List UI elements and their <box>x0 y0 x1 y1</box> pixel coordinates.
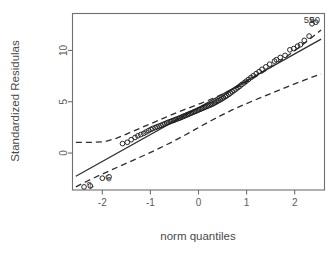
outlier-label: 2 <box>84 179 95 191</box>
x-axis-tick-labels: -2-1012 <box>98 197 298 208</box>
qq-plot-canvas: -2-1012 0510 595026 norm quantiles Stand… <box>0 0 336 254</box>
confidence-envelope-lower <box>76 74 321 187</box>
confidence-envelope-upper <box>76 30 321 142</box>
y-tick-label: 10 <box>58 44 69 56</box>
x-tick-label: -2 <box>98 197 107 208</box>
data-point <box>278 55 283 60</box>
data-points <box>82 20 319 189</box>
x-tick-label: 0 <box>196 197 202 208</box>
x-tick-label: 1 <box>244 197 250 208</box>
x-tick-label: -1 <box>146 197 155 208</box>
y-axis-tick-labels: 0510 <box>58 44 69 155</box>
y-tick-label: 0 <box>58 150 69 156</box>
qq-plot-figure: -2-1012 0510 595026 norm quantiles Stand… <box>0 0 336 254</box>
y-tick-label: 5 <box>58 99 69 105</box>
outlier-label: 6 <box>103 172 114 184</box>
x-tick-label: 2 <box>292 197 298 208</box>
data-point <box>302 38 307 43</box>
y-axis-title: Standardized Residulas <box>9 40 21 162</box>
x-axis-ticks <box>102 190 294 195</box>
panel-border <box>73 14 325 191</box>
data-point <box>138 132 143 137</box>
outlier-label: 50 <box>310 14 321 25</box>
plot-panel <box>73 14 325 191</box>
data-point <box>267 62 272 67</box>
x-axis-title: norm quantiles <box>160 230 236 242</box>
data-point <box>120 141 125 146</box>
data-point <box>283 53 288 58</box>
data-point <box>307 34 312 39</box>
